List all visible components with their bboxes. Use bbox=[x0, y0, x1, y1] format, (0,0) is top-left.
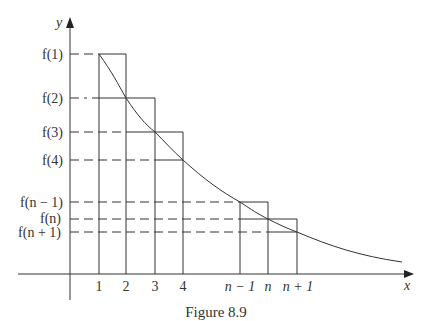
y-tick-fn-1: f(n − 1) bbox=[20, 195, 63, 211]
x-tick-2: 2 bbox=[123, 279, 130, 294]
x-tick-4: 4 bbox=[180, 279, 187, 294]
x-axis-arrow-icon bbox=[404, 270, 414, 278]
x-tick-n-1: n − 1 bbox=[225, 279, 255, 294]
curve-f bbox=[99, 54, 402, 262]
y-tick-fn+1: f(n + 1) bbox=[18, 225, 61, 241]
x-tick-n: n bbox=[265, 279, 272, 294]
x-tick-n+1: n + 1 bbox=[283, 279, 313, 294]
y-tick-labels: f(1) f(2) f(3) f(4) f(n − 1) f(n) f(n + … bbox=[18, 47, 63, 241]
x-tick-1: 1 bbox=[96, 279, 103, 294]
figure-caption: Figure 8.9 bbox=[185, 304, 247, 320]
rectangles-n bbox=[240, 202, 297, 274]
y-axis-arrow-icon bbox=[66, 17, 74, 28]
figure-canvas: y x f(1) f(2) f(3) f(4) f(n − 1) f(n) f(… bbox=[0, 0, 427, 321]
y-axis-label: y bbox=[54, 15, 63, 30]
y-tick-f4: f(4) bbox=[42, 153, 63, 169]
x-tick-3: 3 bbox=[152, 279, 159, 294]
x-tick-labels: 1 2 3 4 n − 1 n n + 1 bbox=[96, 279, 314, 294]
dashed-guides bbox=[70, 54, 268, 232]
y-tick-f3: f(3) bbox=[42, 125, 63, 141]
x-axis-label: x bbox=[403, 278, 411, 293]
y-tick-f2: f(2) bbox=[42, 91, 63, 107]
rectangles-start bbox=[99, 54, 183, 274]
y-tick-f1: f(1) bbox=[42, 47, 63, 63]
